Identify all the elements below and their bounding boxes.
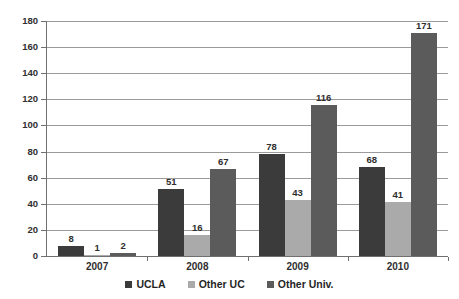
bar-2008-other-univ (210, 169, 236, 256)
gridline-80 (47, 152, 448, 153)
gridline-160 (47, 47, 448, 48)
y-tick-label-180: 180 (2, 16, 38, 26)
plot-area: 81251166778431166841171 (47, 21, 448, 256)
chart-screenshot: 020406080100120140160180 812511667784311… (0, 0, 459, 299)
y-tick-40 (41, 204, 46, 205)
x-category-2008: 2008 (167, 262, 227, 272)
value-label-2009-other-univ: 116 (304, 93, 344, 103)
legend-label: UCLA (136, 279, 165, 290)
y-tick-20 (41, 230, 46, 231)
y-tick-0 (41, 256, 46, 257)
gridline-60 (47, 178, 448, 179)
legend-swatch-icon (267, 281, 274, 288)
x-tick-3 (348, 257, 349, 261)
y-tick-label-60: 60 (2, 173, 38, 183)
y-tick-60 (41, 178, 46, 179)
gridline-180 (47, 21, 448, 22)
bar-2008-other-uc (184, 235, 210, 256)
value-label-2010-other-uc: 41 (378, 190, 418, 200)
y-tick-label-160: 160 (2, 42, 38, 52)
bar-2009-other-uc (285, 200, 311, 256)
y-tick-120 (41, 99, 46, 100)
y-tick-80 (41, 152, 46, 153)
value-label-2008-ucla: 51 (151, 177, 191, 187)
bar-2010-ucla (359, 167, 385, 256)
y-tick-160 (41, 47, 46, 48)
value-label-2009-ucla: 78 (252, 142, 292, 152)
bar-2007-other-univ (110, 253, 136, 256)
y-tick-180 (41, 21, 46, 22)
value-label-2009-other-uc: 43 (278, 188, 318, 198)
legend-label: Other Univ. (278, 279, 334, 290)
x-category-2009: 2009 (268, 262, 328, 272)
bar-2009-other-univ (311, 105, 337, 256)
legend-item-other-univ[interactable]: Other Univ. (267, 279, 334, 290)
y-tick-140 (41, 73, 46, 74)
y-tick-label-120: 120 (2, 94, 38, 104)
legend-item-other-uc[interactable]: Other UC (188, 279, 245, 290)
y-tick-label-140: 140 (2, 68, 38, 78)
legend-swatch-icon (125, 281, 132, 288)
gridline-100 (47, 125, 448, 126)
bar-2009-ucla (259, 154, 285, 256)
bar-2007-other-uc (84, 255, 110, 256)
value-label-2007-ucla: 8 (51, 234, 91, 244)
y-tick-label-100: 100 (2, 120, 38, 130)
y-tick-label-80: 80 (2, 147, 38, 157)
legend-swatch-icon (188, 281, 195, 288)
x-tick-2 (248, 257, 249, 261)
value-label-2007-other-univ: 2 (103, 241, 143, 251)
gridline-120 (47, 99, 448, 100)
y-tick-label-0: 0 (2, 251, 38, 261)
y-tick-100 (41, 125, 46, 126)
legend-label: Other UC (199, 279, 245, 290)
x-category-2010: 2010 (368, 262, 428, 272)
legend-item-ucla[interactable]: UCLA (125, 279, 165, 290)
x-category-2007: 2007 (67, 262, 127, 272)
gridline-140 (47, 73, 448, 74)
value-label-2010-other-univ: 171 (404, 21, 444, 31)
x-tick-4 (448, 257, 449, 261)
y-tick-label-40: 40 (2, 199, 38, 209)
y-tick-label-20: 20 (2, 225, 38, 235)
bar-2010-other-univ (411, 33, 437, 256)
chart-legend: UCLAOther UCOther Univ. (0, 279, 459, 290)
x-tick-1 (147, 257, 148, 261)
value-label-2008-other-univ: 67 (203, 157, 243, 167)
bar-2010-other-uc (385, 202, 411, 256)
value-label-2010-ucla: 68 (352, 155, 392, 165)
value-label-2008-other-uc: 16 (177, 223, 217, 233)
